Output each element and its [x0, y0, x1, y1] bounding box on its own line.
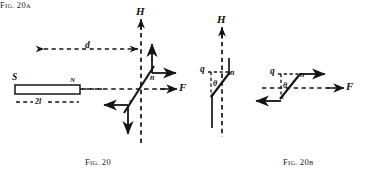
caption-fig20-number: 20 [102, 157, 111, 167]
fig20a-graphics [208, 27, 230, 137]
fig20a-label-n: n [230, 68, 234, 77]
caption-fig20a-number: 20 [17, 0, 26, 10]
fig20-label-d: d [85, 40, 90, 50]
fig20-label-N: N [70, 76, 75, 84]
fig20b-label-q: q [270, 66, 275, 76]
caption-fig20a-suffix: A [26, 2, 31, 9]
fig20a-label-s: s [211, 90, 214, 98]
fig20b-label-s: s [281, 93, 284, 101]
caption-fig20b-suffix: B [309, 159, 314, 166]
fig20-label-F: F [179, 81, 186, 93]
fig20b-label-theta: θ [283, 81, 287, 90]
fig20a-label-theta: θ [213, 79, 217, 88]
fig20b-label-F: F [346, 80, 353, 92]
caption-fig20a: FIG. 20A [0, 0, 31, 10]
figure-plate: H F d S N 2l n s H q n θ s F q n θ s FIG… [0, 0, 365, 179]
fig20-label-s: s [129, 97, 132, 105]
fig20-label-n: n [150, 73, 154, 82]
caption-fig20: FIG. 20 [85, 157, 111, 167]
fig20a-label-H: H [217, 13, 226, 25]
caption-fig20b-number: 20 [300, 157, 309, 167]
caption-fig20-smallcaps: IG. [90, 159, 99, 166]
caption-fig20b: FIG. 20B [283, 157, 314, 167]
fig20-label-2l: 2l [35, 97, 41, 106]
fig20-bar-magnet [15, 85, 80, 94]
fig20-label-H: H [136, 5, 145, 17]
fig20a-label-q: q [200, 64, 205, 74]
fig20-graphics [15, 19, 177, 146]
caption-fig20b-smallcaps: IG. [288, 159, 297, 166]
caption-fig20a-smallcaps: IG. [5, 2, 14, 9]
fig20-label-S: S [12, 72, 17, 82]
fig20b-label-n: n [300, 70, 304, 79]
